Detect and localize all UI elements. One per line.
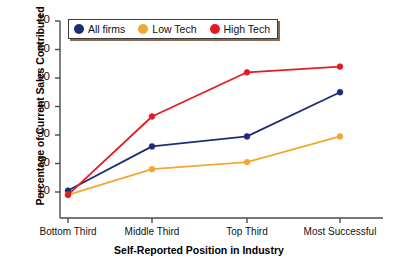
legend-item-high-tech[interactable]: High Tech xyxy=(210,23,271,35)
x-axis-title: Self-Reported Position in Industry xyxy=(0,244,398,256)
legend-item-label: Low Tech xyxy=(152,23,196,35)
plot-area xyxy=(0,0,398,269)
legend-swatch-icon xyxy=(74,24,84,34)
legend-item-all-firms[interactable]: All firms xyxy=(74,23,125,35)
legend-swatch-icon xyxy=(210,24,220,34)
legend-item-label: High Tech xyxy=(224,23,271,35)
legend-item-label: All firms xyxy=(88,23,125,35)
chart-legend: All firmsLow TechHigh Tech xyxy=(68,19,278,39)
legend-swatch-icon xyxy=(138,24,148,34)
legend-item-low-tech[interactable]: Low Tech xyxy=(138,23,196,35)
chart-figure: Percentage of Current Sales Contributed … xyxy=(0,0,398,269)
